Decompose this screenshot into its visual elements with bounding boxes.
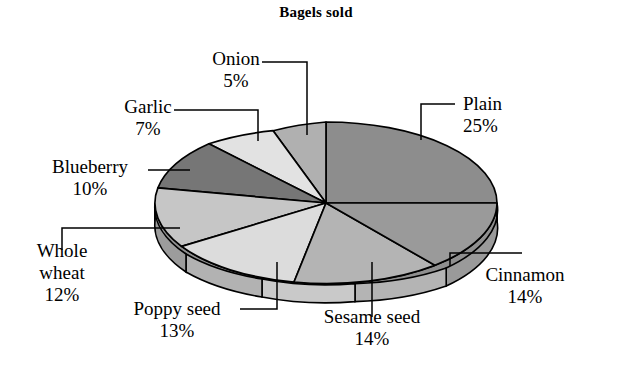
label-garlic-name: Garlic <box>124 96 171 117</box>
label-sesame-seed: Sesame seed 14% <box>297 306 447 350</box>
label-blueberry-percent: 10% <box>30 178 150 200</box>
label-plain: Plain 25% <box>463 93 563 137</box>
label-onion: Onion 5% <box>196 48 276 92</box>
label-blueberry-name: Blueberry <box>52 156 128 177</box>
label-cinnamon-name: Cinnamon <box>485 264 564 285</box>
leader-plain <box>421 104 455 140</box>
label-whole-wheat-line2: wheat <box>14 262 110 284</box>
label-poppy-seed-name: Poppy seed <box>133 298 220 319</box>
label-cinnamon: Cinnamon 14% <box>460 264 590 308</box>
pie-chart-figure: Bagels sold <box>0 0 632 391</box>
label-garlic-percent: 7% <box>108 118 188 140</box>
label-sesame-seed-name: Sesame seed <box>324 306 421 327</box>
label-cinnamon-percent: 14% <box>460 286 590 308</box>
label-sesame-seed-percent: 14% <box>297 328 447 350</box>
label-whole-wheat-percent: 12% <box>14 284 110 306</box>
label-garlic: Garlic 7% <box>108 96 188 140</box>
label-blueberry: Blueberry 10% <box>30 156 150 200</box>
label-onion-percent: 5% <box>196 70 276 92</box>
pie-top-face <box>155 122 497 284</box>
label-poppy-seed-percent: 13% <box>112 320 242 342</box>
label-whole-wheat: Whole wheat 12% <box>14 240 110 306</box>
label-plain-name: Plain <box>463 93 502 114</box>
label-plain-percent: 25% <box>463 115 563 137</box>
label-onion-name: Onion <box>212 48 260 69</box>
label-poppy-seed: Poppy seed 13% <box>112 298 242 342</box>
label-whole-wheat-line1: Whole <box>37 240 88 261</box>
